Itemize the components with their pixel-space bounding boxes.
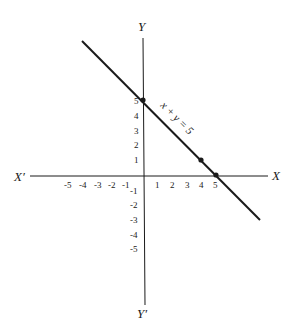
- equation-line: [82, 41, 260, 220]
- x-tick-label: -3: [94, 180, 102, 190]
- y-axis-negative-label: Y′: [137, 306, 147, 321]
- y-tick-label: 2: [134, 140, 139, 150]
- coordinate-plane-diagram: X X′ Y Y′ -5 -4 -3 -2 -1 1 2 3 4 5 5 4 3…: [0, 0, 301, 327]
- point-5-0: [213, 172, 218, 177]
- y-axis-positive-label: Y: [138, 19, 147, 34]
- y-tick-label: -5: [130, 244, 138, 254]
- x-tick-label: -1: [122, 180, 130, 190]
- x-tick-label: 3: [185, 180, 190, 190]
- y-tick-label: -2: [130, 200, 138, 210]
- x-tick-label: -4: [79, 180, 87, 190]
- x-tick-label: 5: [213, 180, 218, 190]
- x-axis-negative-label: X′: [13, 169, 25, 184]
- x-tick-label: -5: [64, 180, 72, 190]
- equation-label: x + y = 5: [158, 98, 197, 137]
- x-tick-label: 4: [199, 180, 204, 190]
- y-tick-label: 1: [134, 155, 139, 165]
- x-axis-positive-label: X: [271, 168, 281, 183]
- y-tick-label: -4: [130, 230, 138, 240]
- x-tick-label: 2: [170, 180, 175, 190]
- y-tick-label: -3: [130, 215, 138, 225]
- diagram-svg: X X′ Y Y′ -5 -4 -3 -2 -1 1 2 3 4 5 5 4 3…: [0, 0, 301, 327]
- y-tick-label: 3: [134, 126, 139, 136]
- y-tick-label: -1: [130, 186, 138, 196]
- x-tick-label: 1: [155, 180, 160, 190]
- point-0-5: [140, 97, 145, 102]
- x-tick-label: -2: [108, 180, 116, 190]
- y-tick-label: 4: [134, 111, 139, 121]
- y-axis: [143, 38, 145, 305]
- point-4-1: [198, 157, 203, 162]
